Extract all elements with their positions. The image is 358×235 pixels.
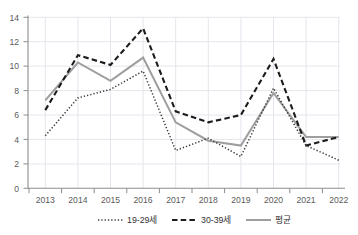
series-line-age-30s bbox=[45, 28, 338, 145]
xtick-label-2018: 2018 bbox=[199, 195, 218, 205]
legend-label-age-30s: 30-39세 bbox=[201, 215, 232, 225]
series-group bbox=[45, 28, 338, 160]
chart-canvas: 14 12 10 8 6 4 2 0 2013 2014 2015 2016 bbox=[0, 0, 358, 235]
xtick-label-2022: 2022 bbox=[329, 195, 348, 205]
y-axis: 14 12 10 8 6 4 2 0 bbox=[9, 13, 28, 194]
xtick-label-2016: 2016 bbox=[134, 195, 153, 205]
legend-label-average: 평균 bbox=[275, 215, 291, 225]
ytick-label-10: 10 bbox=[9, 61, 19, 71]
ytick-label-6: 6 bbox=[14, 110, 19, 120]
ytick-label-0: 0 bbox=[14, 184, 19, 194]
xtick-label-2014: 2014 bbox=[68, 195, 87, 205]
xtick-label-2015: 2015 bbox=[101, 195, 120, 205]
xtick-label-2020: 2020 bbox=[264, 195, 283, 205]
ytick-label-8: 8 bbox=[14, 86, 19, 96]
line-chart: 14 12 10 8 6 4 2 0 2013 2014 2015 2016 bbox=[0, 0, 358, 235]
ytick-label-2: 2 bbox=[14, 159, 19, 169]
xtick-label-2021: 2021 bbox=[297, 195, 316, 205]
chart-title bbox=[0, 0, 358, 3]
legend-label-age-20s: 19-29세 bbox=[127, 215, 158, 225]
xtick-label-2019: 2019 bbox=[231, 195, 250, 205]
xtick-label-2017: 2017 bbox=[166, 195, 185, 205]
x-axis: 2013 2014 2015 2016 2017 2018 2019 2020 … bbox=[28, 188, 348, 204]
ytick-label-12: 12 bbox=[9, 37, 19, 47]
ytick-label-14: 14 bbox=[9, 13, 19, 23]
legend: 19-29세 30-39세 평균 bbox=[98, 215, 291, 225]
series-line-average bbox=[45, 58, 338, 146]
xtick-label-2013: 2013 bbox=[36, 195, 55, 205]
ytick-label-4: 4 bbox=[14, 135, 19, 145]
gridlines bbox=[28, 17, 340, 188]
